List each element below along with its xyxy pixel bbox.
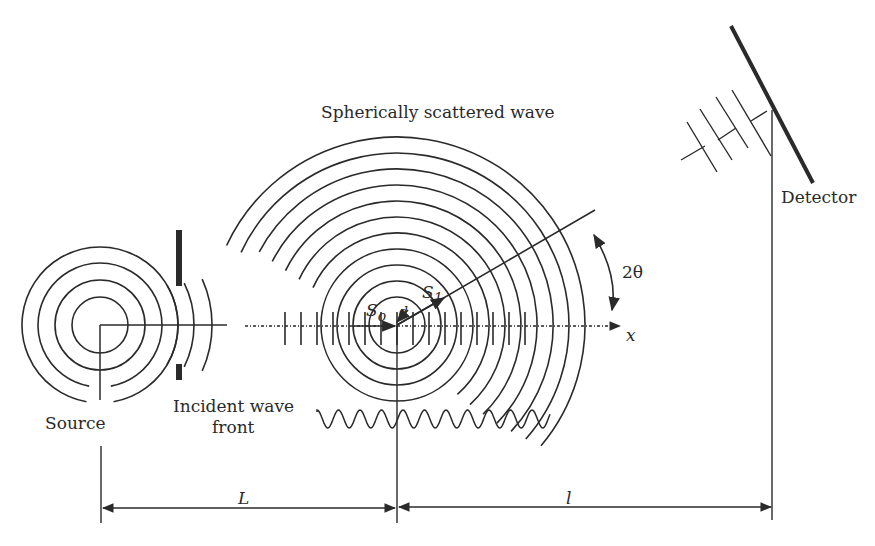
incident-wave-label-line2: front — [212, 417, 254, 437]
distance-L-label: L — [238, 488, 249, 508]
x-axis-label: x — [626, 325, 636, 345]
s0-label: So — [366, 300, 386, 321]
source-label: Source — [45, 413, 106, 433]
scattered-wave-label: Spherically scattered wave — [321, 102, 555, 122]
scatter-vector-label: d — [399, 302, 408, 322]
detector-label: Detector — [781, 187, 856, 207]
diagram-canvas: Spherically scattered wave Source Incide… — [0, 0, 875, 546]
angle-label: 2θ — [622, 262, 643, 282]
s1-label: S1 — [422, 282, 443, 303]
scattering-diagram — [0, 0, 875, 546]
distance-l-label: l — [566, 488, 571, 508]
incident-wave-label-line1: Incident wave — [173, 396, 294, 416]
